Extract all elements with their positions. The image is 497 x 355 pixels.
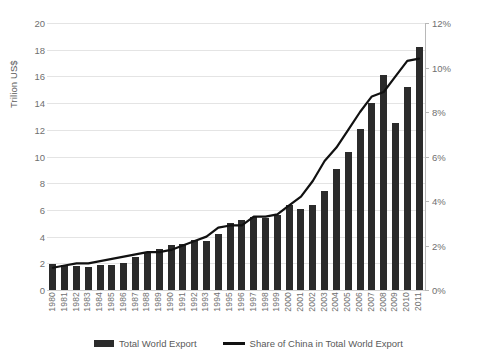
y2-axis-tick-mark (425, 157, 429, 158)
y2-axis-tick-label: 2% (432, 240, 466, 251)
y-axis-tick-label: 2 (15, 258, 45, 269)
y-axis-tick-label: 20 (15, 18, 45, 29)
x-axis-tick-label: 1992 (189, 292, 201, 312)
x-axis-tick-label: 2003 (319, 292, 331, 312)
y-axis-tick-label: 4 (15, 231, 45, 242)
x-axis-tick-label: 1993 (200, 292, 212, 312)
x-axis-tick-label: 1989 (153, 292, 165, 312)
x-axis-tick-label: 2000 (283, 292, 295, 312)
y2-axis-tick-mark (425, 290, 429, 291)
chart-legend: Total World Export Share of China in Tot… (0, 334, 497, 352)
line-series (47, 23, 425, 290)
y-axis-tick-label: 16 (15, 71, 45, 82)
y2-axis-tick-label: 8% (432, 107, 466, 118)
y-axis-tick-label: 8 (15, 178, 45, 189)
legend-label: Total World Export (119, 338, 196, 349)
x-axis-tick-label: 1985 (106, 292, 118, 312)
x-axis-tick-label: 1995 (224, 292, 236, 312)
x-axis-tick-label: 1988 (141, 292, 153, 312)
y2-axis-tick-mark (425, 68, 429, 69)
y-axis-tick-label: 0 (15, 285, 45, 296)
x-axis-tick-label: 1986 (118, 292, 130, 312)
chart-container: Trilion US$ 02468101214161820 0%2%4%6%8%… (0, 0, 497, 355)
x-axis-tick-label: 1998 (260, 292, 272, 312)
x-axis-tick-label: 1982 (71, 292, 83, 312)
x-axis-tick-label: 2011 (413, 292, 425, 311)
legend-label: Share of China in Total World Export (250, 338, 403, 349)
x-axis-tick-label: 1983 (82, 292, 94, 312)
plot-area (47, 23, 425, 290)
y2-axis-tick-label: 0% (432, 285, 466, 296)
legend-item-share-of-china: Share of China in Total World Export (223, 338, 403, 349)
x-axis-tick-label: 2009 (389, 292, 401, 312)
y-axis-tick-label: 6 (15, 204, 45, 215)
x-axis-tick-label: 2002 (307, 292, 319, 312)
x-axis-tick-label: 1999 (271, 292, 283, 312)
y2-axis-tick-mark (425, 201, 429, 202)
x-axis-ticks: 1980198119821983198419851986198719881989… (47, 292, 425, 330)
y2-axis-tick-label: 6% (432, 151, 466, 162)
x-axis-tick-label: 2004 (330, 292, 342, 312)
x-axis-tick-label: 1991 (177, 292, 189, 312)
x-axis-tick-label: 1990 (165, 292, 177, 312)
x-axis-tick-label: 1981 (59, 292, 71, 312)
y2-axis-tick-mark (425, 112, 429, 113)
x-axis-tick-label: 2010 (401, 292, 413, 312)
line-swatch-icon (223, 342, 245, 345)
y2-axis-tick-label: 10% (432, 62, 466, 73)
x-axis-tick-label: 1987 (130, 292, 142, 312)
x-axis-tick-label: 2007 (366, 292, 378, 312)
y-axis-tick-label: 18 (15, 44, 45, 55)
x-axis-tick-label: 1997 (248, 292, 260, 312)
y2-axis-tick-mark (425, 246, 429, 247)
legend-item-total-world-export: Total World Export (94, 338, 196, 349)
x-axis-tick-label: 2005 (342, 292, 354, 312)
y-axis-tick-label: 12 (15, 124, 45, 135)
y2-axis-tick-label: 12% (432, 18, 466, 29)
x-axis-tick-label: 2008 (378, 292, 390, 312)
x-axis-tick-label: 1980 (47, 292, 59, 312)
x-axis-tick-label: 1984 (94, 292, 106, 312)
y-axis-tick-label: 14 (15, 98, 45, 109)
x-axis-tick-label: 2006 (354, 292, 366, 312)
y-axis-title: Trilion US$ (4, 18, 24, 108)
x-axis-tick-label: 1996 (236, 292, 248, 312)
share-of-china-line (53, 59, 419, 268)
x-axis-tick-label: 1994 (212, 292, 224, 312)
y-axis-tick-label: 10 (15, 151, 45, 162)
x-axis-tick-label: 2001 (295, 292, 307, 312)
bar-swatch-icon (94, 340, 114, 347)
y2-axis-tick-mark (425, 23, 429, 24)
y2-axis-tick-label: 4% (432, 196, 466, 207)
